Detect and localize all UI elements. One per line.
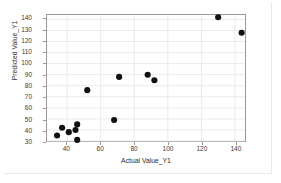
data-point: [66, 129, 72, 135]
data-point: [84, 87, 90, 93]
data-point: [239, 30, 245, 36]
data-point: [54, 132, 60, 138]
y-axis-tick-label: 40: [6, 128, 32, 135]
scatter-plot-figure: 30405060708090100110120130140 4060801001…: [0, 0, 281, 183]
y-axis-label: Predicted Value_Y1: [12, 4, 19, 96]
y-axis-tick-label: 30: [6, 139, 32, 146]
x-axis-tick-label: 40: [63, 146, 70, 153]
data-point: [116, 74, 122, 80]
x-axis-tick-label: 80: [131, 146, 138, 153]
x-axis-tick-mark: [100, 142, 101, 145]
x-axis-label: Actual Value_Y1: [46, 158, 246, 165]
x-axis-tick-label: 120: [196, 146, 207, 153]
data-points-layer: [47, 15, 245, 141]
x-axis-tick-label: 60: [97, 146, 104, 153]
x-axis-tick-mark: [134, 142, 135, 145]
x-axis-tick-label: 100: [163, 146, 174, 153]
data-point: [215, 14, 221, 20]
plot-area: [46, 14, 246, 142]
y-axis-tick-label: 50: [6, 116, 32, 123]
y-axis-tick-label: 70: [6, 94, 32, 101]
data-point: [59, 125, 65, 131]
data-point: [145, 72, 151, 78]
data-point: [151, 77, 157, 83]
y-axis-tick-label: 80: [6, 83, 32, 90]
data-point: [72, 127, 78, 133]
data-point: [111, 117, 117, 123]
data-point: [74, 137, 80, 143]
data-point: [74, 121, 80, 127]
x-axis-tick-mark: [202, 142, 203, 145]
x-axis-tick-mark: [66, 142, 67, 145]
x-axis-tick-mark: [236, 142, 237, 145]
x-axis-tick-mark: [168, 142, 169, 145]
x-axis-tick-label: 140: [230, 146, 241, 153]
y-axis-tick-label: 60: [6, 105, 32, 112]
y-axis-tick-mark: [43, 142, 46, 143]
